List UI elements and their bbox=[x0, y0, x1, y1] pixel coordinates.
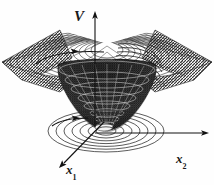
x1-axis-line bbox=[64, 122, 104, 163]
x2-axis-label: x2 bbox=[176, 152, 187, 169]
x1-axis-label: x1 bbox=[66, 163, 77, 180]
v-axis-label: V bbox=[74, 9, 84, 24]
x1-axis-label-base: x bbox=[66, 162, 73, 177]
x2-axis-label-subscript: 2 bbox=[183, 162, 187, 171]
x1-axis-label-subscript: 1 bbox=[73, 173, 77, 182]
mexican-hat-potential-figure: V x1 x2 bbox=[0, 0, 214, 185]
x2-axis-label-base: x bbox=[176, 151, 183, 166]
